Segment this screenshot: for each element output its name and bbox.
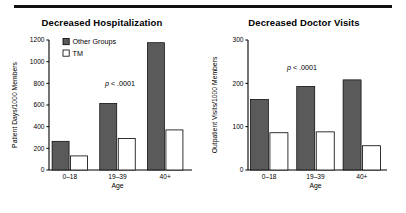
- x-tick-label: 19–39: [306, 173, 325, 180]
- figure-root: Decreased Hospitalization 02004006008001…: [0, 0, 406, 213]
- x-axis-title: Age: [111, 182, 123, 190]
- legend-label: Other Groups: [73, 37, 117, 46]
- bar-other-groups: [100, 103, 117, 170]
- y-axis-title: Outpatient Visits/1000 Members: [211, 56, 219, 153]
- chart-hospitalization: 020040060080010001200Patient Days/1000 M…: [2, 12, 202, 210]
- bar-tm: [316, 132, 334, 170]
- y-tick-label: 0: [240, 166, 244, 173]
- p-value-annotation: p < .0001: [286, 63, 317, 72]
- bar-tm: [363, 146, 381, 170]
- panel-hospitalization: Decreased Hospitalization 02004006008001…: [2, 12, 202, 210]
- x-tick-label: 40+: [356, 173, 367, 180]
- x-axis-title: Age: [309, 182, 321, 190]
- bar-other-groups: [250, 99, 268, 170]
- legend-swatch-tm: [63, 50, 69, 56]
- bar-tm: [71, 156, 88, 170]
- y-tick-label: 1000: [30, 58, 45, 65]
- y-tick-label: 0: [41, 166, 45, 173]
- y-tick-label: 100: [232, 123, 243, 130]
- bar-other-groups: [147, 43, 164, 170]
- bar-tm: [270, 133, 288, 170]
- x-tick-label: 40+: [160, 173, 171, 180]
- bar-tm: [166, 130, 183, 170]
- y-tick-label: 200: [33, 145, 44, 152]
- y-tick-label: 600: [33, 101, 44, 108]
- y-tick-label: 1200: [30, 36, 45, 43]
- y-tick-label: 300: [232, 36, 243, 43]
- chart-doctor-visits: 0100200300Outpatient Visits/1000 Members…: [204, 12, 404, 210]
- p-value-annotation: p < .0001: [104, 79, 135, 88]
- x-tick-label: 19–39: [108, 173, 127, 180]
- legend-swatch-other-groups: [63, 39, 69, 45]
- legend-label: TM: [73, 49, 83, 58]
- y-tick-label: 400: [33, 123, 44, 130]
- y-tick-label: 800: [33, 80, 44, 87]
- x-tick-label: 0–18: [262, 173, 277, 180]
- bar-other-groups: [297, 86, 315, 170]
- bar-tm: [118, 139, 135, 170]
- panel-doctor-visits: Decreased Doctor Visits 0100200300Outpat…: [204, 12, 404, 210]
- bar-other-groups: [343, 80, 361, 170]
- y-tick-label: 200: [232, 80, 243, 87]
- header-rule: [14, 5, 392, 8]
- bar-other-groups: [52, 141, 69, 170]
- x-tick-label: 0–18: [62, 173, 77, 180]
- y-axis-title: Patient Days/1000 Members: [11, 62, 19, 148]
